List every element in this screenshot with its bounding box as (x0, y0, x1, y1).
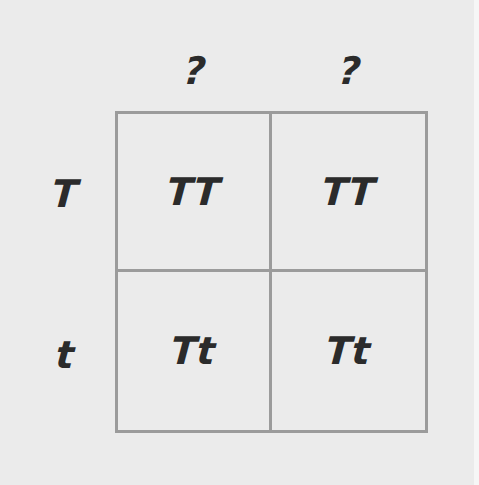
column-header-2: ? (319, 52, 382, 90)
cell-genotype: Tt (325, 329, 372, 373)
punnett-cell: TT (118, 114, 272, 272)
punnett-square-grid: TT TT Tt Tt (115, 111, 428, 433)
punnett-cell: Tt (272, 272, 426, 430)
punnett-cell: Tt (118, 272, 272, 430)
cell-genotype: TT (165, 170, 221, 214)
column-header-1: ? (164, 52, 227, 90)
punnett-cell: TT (272, 114, 426, 272)
cell-genotype: Tt (170, 329, 217, 373)
page-edge (474, 0, 479, 485)
row-header-1: T (34, 175, 97, 213)
cell-genotype: TT (320, 170, 376, 214)
row-header-2: t (34, 336, 97, 374)
